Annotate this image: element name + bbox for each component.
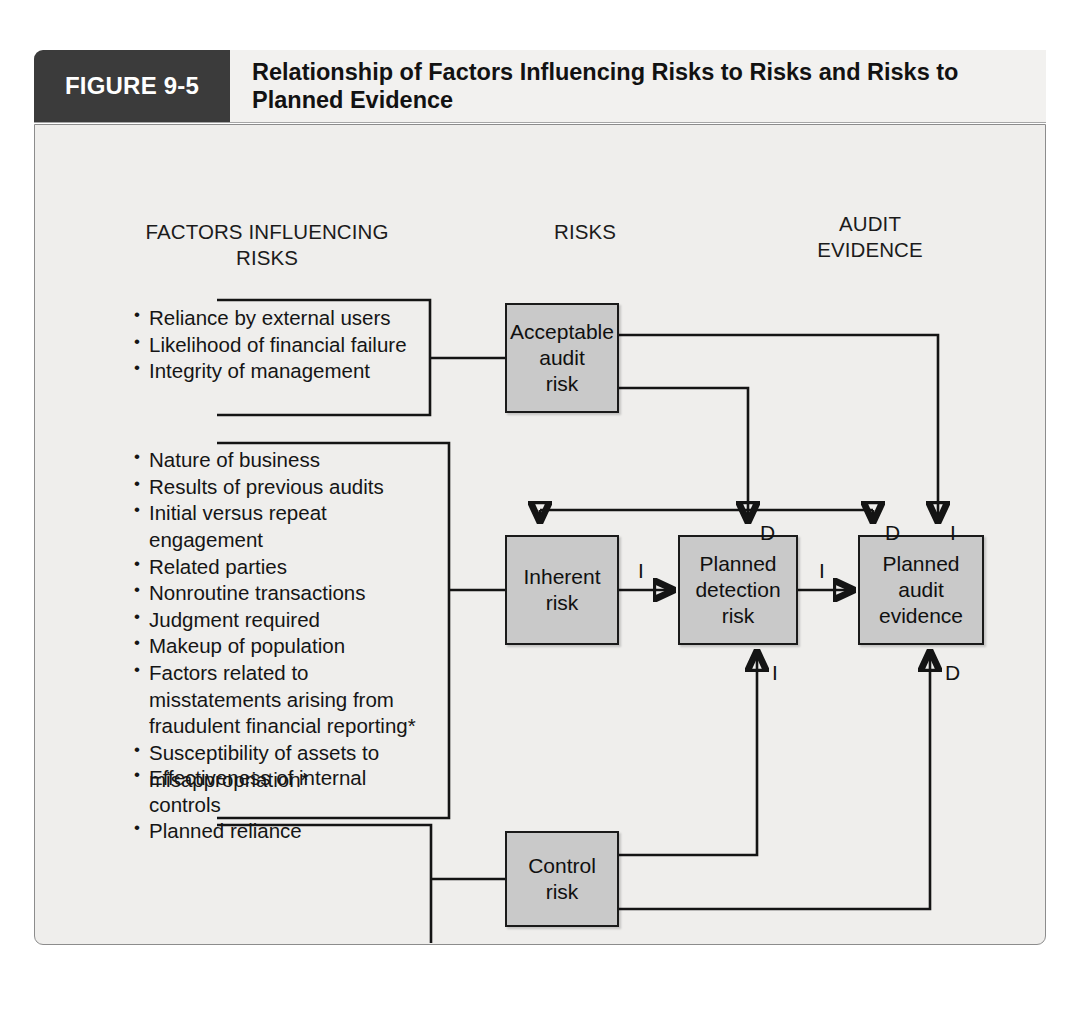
list-item: Planned reliance [133,818,423,845]
column-heading-risks: RISKS [505,219,665,245]
factor-list-control-risk: Effectiveness of internal controls Plann… [133,765,423,845]
node-control-risk: Control risk [505,831,619,927]
edge-label-aar-to-pdr: D [760,521,775,545]
node-planned-audit-evidence: Planned audit evidence [858,535,984,645]
figure-title: Relationship of Factors Influencing Risk… [230,50,1046,122]
node-inherent-risk: Inherent risk [505,535,619,645]
edge-label-aar-right-to-pae: I [950,521,956,545]
edge-label-cr-to-pdr: I [772,661,778,685]
figure-header: FIGURE 9-5 Relationship of Factors Influ… [34,50,1046,122]
list-item: Effectiveness of internal controls [133,765,423,818]
list-item: Initial versus repeat engagement [133,500,443,553]
list-item: Judgment required [133,607,443,634]
list-item: Likelihood of financial failure [133,332,433,359]
figure-card: FIGURE 9-5 Relationship of Factors Influ… [34,50,1046,945]
list-item: Related parties [133,554,443,581]
list-item: Results of previous audits [133,474,443,501]
edge-label-ir-to-pdr: I [638,559,644,583]
list-item: Reliance by external users [133,305,433,332]
node-planned-detection-risk: Planned detection risk [678,535,798,645]
list-item: Factors related to misstatements arising… [133,660,443,740]
list-item: Makeup of population [133,633,443,660]
factor-list-inherent-risk: Nature of business Results of previous a… [133,447,443,793]
list-item: Integrity of management [133,358,433,385]
node-acceptable-audit-risk: Acceptable audit risk [505,303,619,413]
edge-label-aar-to-pae: D [885,521,900,545]
edge-label-pdr-to-pae: I [819,559,825,583]
edge-label-cr-to-pae: D [945,661,960,685]
list-item: Nonroutine transactions [133,580,443,607]
diagram-canvas: FACTORS INFLUENCING RISKS RISKS AUDIT EV… [35,125,1044,943]
figure-body-panel: FACTORS INFLUENCING RISKS RISKS AUDIT EV… [34,124,1046,945]
figure-number-label: FIGURE 9-5 [34,50,230,122]
list-item: Nature of business [133,447,443,474]
factor-list-acceptable-audit-risk: Reliance by external users Likelihood of… [133,305,433,385]
column-heading-audit-evidence: AUDIT EVIDENCE [775,211,965,263]
column-heading-factors: FACTORS INFLUENCING RISKS [117,219,417,271]
